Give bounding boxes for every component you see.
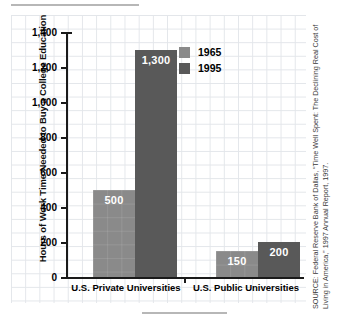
bar-1995-public: 200 — [258, 242, 300, 277]
y-tick-label: 200 — [40, 237, 57, 248]
y-tick-mark — [61, 242, 67, 244]
y-tick-label: 1,400 — [32, 27, 57, 38]
legend-label-1995: 1995 — [198, 62, 221, 74]
y-tick-mark — [61, 102, 67, 104]
source-note-text: SOURCE: Federal Reserve Bank of Dallas, … — [311, 15, 330, 309]
y-tick-label: 1,200 — [32, 62, 57, 73]
y-tick-mark — [61, 67, 67, 69]
bar-value-label: 150 — [216, 255, 258, 267]
bar-1965-public: 150 — [216, 251, 258, 277]
top-rule — [11, 4, 139, 6]
bottom-rule — [142, 312, 227, 314]
legend-label-1965: 1965 — [198, 46, 221, 58]
legend-item-1965: 1965 — [179, 45, 221, 59]
category-label-public: U.S. Public Universities — [188, 282, 304, 293]
y-tick-label: 1,000 — [32, 97, 57, 108]
y-tick-label: 400 — [40, 202, 57, 213]
y-tick-mark — [61, 172, 67, 174]
bar-value-label: 500 — [93, 194, 135, 206]
source-note: SOURCE: Federal Reserve Bank of Dallas, … — [311, 15, 347, 310]
legend-swatch-1965-icon — [179, 47, 190, 58]
category-separator-tick — [184, 277, 186, 283]
chart-panel: Hours of Work Time Needed to Buy a Colle… — [11, 15, 306, 303]
bar-value-label: 1,300 — [135, 54, 177, 66]
category-label-private: U.S. Private Universities — [68, 282, 184, 293]
bar-value-label: 200 — [258, 246, 300, 258]
bar-1965-private: 500 — [93, 190, 135, 278]
y-tick-label: 600 — [40, 167, 57, 178]
y-tick-mark — [61, 207, 67, 209]
bar-1995-private: 1,300 — [135, 50, 177, 278]
legend: 1965 1995 — [179, 45, 221, 77]
y-tick-mark — [61, 277, 67, 279]
legend-item-1995: 1995 — [179, 61, 221, 75]
y-tick-mark — [61, 32, 67, 34]
legend-swatch-1995-icon — [179, 63, 190, 74]
y-tick-label: 0 — [51, 272, 57, 283]
y-tick-mark — [61, 137, 67, 139]
y-tick-label: 800 — [40, 132, 57, 143]
